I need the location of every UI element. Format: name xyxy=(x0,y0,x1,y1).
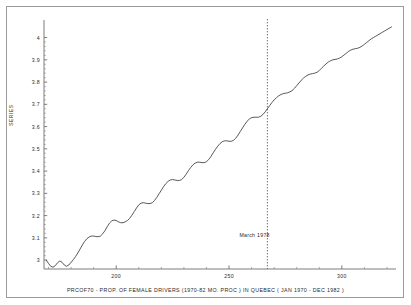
y-axis-tick-label: 4 xyxy=(20,35,40,41)
series-line-series xyxy=(46,27,391,267)
y-axis-tick-label: 3.4 xyxy=(20,168,40,174)
y-axis-tick-label: 3.2 xyxy=(20,213,40,219)
chart-caption: PRCOF70 - PROP. OF FEMALE DRIVERS (1970-… xyxy=(0,287,411,293)
x-axis-tick-label: 250 xyxy=(221,273,237,279)
y-axis-tick-label: 3 xyxy=(20,257,40,263)
x-axis-tick-label: 300 xyxy=(334,273,350,279)
figure-canvas: SERIES 33.13.23.33.43.53.63.73.83.94 200… xyxy=(0,0,411,305)
y-axis-tick-label: 3.9 xyxy=(20,57,40,63)
x-axis-tick-label: 200 xyxy=(108,273,124,279)
y-axis-tick-label: 3.8 xyxy=(20,79,40,85)
march-1978-annotation-label: March 1978 xyxy=(239,232,269,238)
y-axis-tick-label: 3.1 xyxy=(20,235,40,241)
y-axis-tick-label: 3.3 xyxy=(20,190,40,196)
y-axis-tick-label: 3.6 xyxy=(20,124,40,130)
y-axis-tick-label: 3.7 xyxy=(20,101,40,107)
y-axis-title: SERIES xyxy=(8,105,14,126)
plot-area xyxy=(0,0,411,305)
y-axis-tick-label: 3.5 xyxy=(20,146,40,152)
